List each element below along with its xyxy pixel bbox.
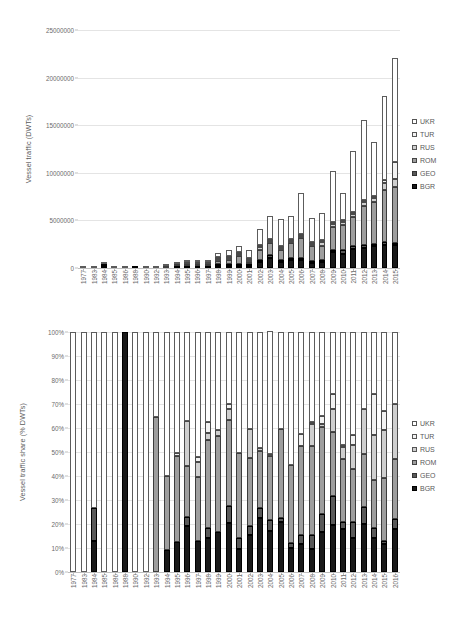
bar-group xyxy=(68,332,78,572)
stacked-bar xyxy=(392,332,398,572)
x-tick-label: 2012 xyxy=(360,270,367,284)
bar-segment-ukr xyxy=(143,332,149,572)
bar-group xyxy=(78,30,88,268)
bar-segment-rus xyxy=(195,462,201,478)
legend-item-tur[interactable]: TUR xyxy=(412,131,436,138)
bar-group xyxy=(286,332,296,572)
legend-item-rus[interactable]: RUS xyxy=(412,144,436,151)
bar-segment-rom xyxy=(381,478,387,540)
x-tick-label: 1995 xyxy=(184,270,191,284)
x-axis-labels-top: 1977198319841985198619881990199219931994… xyxy=(78,268,400,316)
legend-item-bgr[interactable]: BGR xyxy=(412,183,436,190)
legend-item-rom[interactable]: ROM xyxy=(412,157,436,164)
bar-segment-rus xyxy=(392,179,398,187)
bar-segment-geo xyxy=(91,508,97,540)
stacked-bar xyxy=(70,332,76,572)
bar-group xyxy=(109,30,119,268)
legend-item-ukr[interactable]: UKR xyxy=(412,118,436,125)
x-tick-label: 2015 xyxy=(391,270,398,284)
stacked-bar xyxy=(236,246,242,268)
x-tick-label: 1984 xyxy=(90,574,97,588)
x-tick-cell: 1996 xyxy=(182,572,192,618)
x-tick-cell: 1990 xyxy=(140,268,150,316)
bar-group xyxy=(203,30,213,268)
x-tick-cell: 2015 xyxy=(390,268,400,316)
bar-group xyxy=(120,30,130,268)
bar-group xyxy=(348,332,358,572)
bar-segment-geo xyxy=(257,508,263,518)
x-tick-cell: 1977 xyxy=(78,268,88,316)
x-tick-cell: 2010 xyxy=(327,572,337,618)
legend-item-geo[interactable]: GEO xyxy=(412,170,436,177)
x-tick-label: 1998 xyxy=(215,270,222,284)
x-tick-cell: 1984 xyxy=(99,268,109,316)
legend-item-bgr[interactable]: BGR xyxy=(412,485,436,492)
bar-segment-bgr xyxy=(382,245,388,268)
legend-item-rus[interactable]: RUS xyxy=(412,446,436,453)
x-tick-label: 2016 xyxy=(391,574,398,588)
legend-item-rom[interactable]: ROM xyxy=(412,459,436,466)
legend-item-geo[interactable]: GEO xyxy=(412,472,436,479)
bar-segment-ukr xyxy=(371,332,377,394)
x-tick-label: 2001 xyxy=(236,574,243,588)
bar-group xyxy=(296,332,306,572)
bar-group xyxy=(296,30,306,268)
x-tick-label: 2007 xyxy=(298,574,305,588)
x-tick-cell: 1998 xyxy=(213,268,223,316)
bar-segment-rom xyxy=(371,480,377,528)
bar-segment-rom xyxy=(392,459,398,519)
x-tick-label: 1983 xyxy=(80,574,87,588)
bar-segment-rom xyxy=(278,429,284,518)
y-tick-label: 50% xyxy=(51,449,64,456)
x-tick-label: 1988 xyxy=(122,574,129,588)
bar-segment-rom xyxy=(309,446,315,535)
x-tick-cell: 2009 xyxy=(327,268,337,316)
x-tick-cell: 1997 xyxy=(203,268,213,316)
x-tick-label: 2013 xyxy=(360,574,367,588)
bar-segment-ukr xyxy=(392,332,398,404)
bar-group xyxy=(338,30,348,268)
bar-segment-bgr xyxy=(184,526,190,572)
y-tick-label: 80% xyxy=(51,377,64,384)
bar-segment-ukr xyxy=(81,332,87,572)
bar-group xyxy=(193,332,203,572)
x-tick-label: 2002 xyxy=(256,270,263,284)
bar-group xyxy=(78,332,88,572)
stacked-bar xyxy=(267,216,273,268)
bar-segment-rom xyxy=(226,420,232,506)
y-tick-label: 10% xyxy=(51,545,64,552)
x-tick-cell: 2003 xyxy=(265,268,275,316)
bar-segment-tur xyxy=(205,422,211,433)
x-tick-cell: 2013 xyxy=(369,268,379,316)
x-tick-cell: 1993 xyxy=(161,268,171,316)
bar-segment-geo xyxy=(361,507,367,524)
bar-segment-rom xyxy=(361,206,367,246)
bar-segment-rus xyxy=(392,404,398,459)
legend-label: TUR xyxy=(420,433,434,440)
x-tick-label: 1992 xyxy=(142,574,149,588)
bar-segment-bgr xyxy=(215,532,221,572)
stacked-bar xyxy=(247,332,253,572)
x-tick-label: 1993 xyxy=(163,270,170,284)
bar-segment-rom xyxy=(298,238,304,258)
bar-segment-rus xyxy=(247,429,253,458)
bar-segment-tur xyxy=(371,394,377,435)
legend-item-tur[interactable]: TUR xyxy=(412,433,436,440)
bar-segment-ukr xyxy=(340,193,346,220)
x-tick-cell: 1985 xyxy=(109,268,119,316)
bar-segment-rom xyxy=(330,227,336,249)
stacked-bar xyxy=(288,332,294,572)
bar-segment-bgr xyxy=(371,538,377,572)
bar-segment-ukr xyxy=(309,218,315,242)
stacked-bar xyxy=(361,332,367,572)
x-tick-cell: 1992 xyxy=(151,268,161,316)
x-tick-label: 1977 xyxy=(80,270,87,284)
x-tick-cell: 2008 xyxy=(317,268,327,316)
y-tick-label: 30% xyxy=(51,497,64,504)
legend-item-ukr[interactable]: UKR xyxy=(412,420,436,427)
legend-label: TUR xyxy=(420,131,434,138)
x-tick-label: 2004 xyxy=(267,574,274,588)
legend-swatch-icon xyxy=(412,145,417,150)
bar-segment-ukr xyxy=(288,216,294,239)
bar-segment-rom xyxy=(309,246,315,261)
